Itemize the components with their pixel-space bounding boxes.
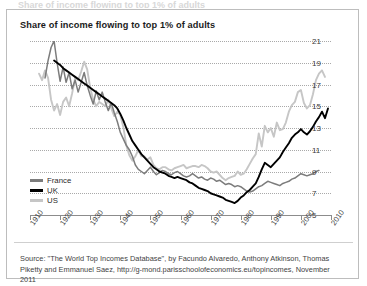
page-title: Share of income flowing to top 1% of adu…: [20, 20, 340, 30]
source-note: Source: "The World Top Incomes Database"…: [20, 254, 346, 286]
y-tick-label-19: 19: [312, 58, 338, 67]
legend-item-uk[interactable]: UK: [30, 186, 100, 195]
chart-panel: Share of income flowing to top 1% of adu…: [6, 9, 359, 279]
y-tick-label-21: 21: [312, 37, 338, 46]
legend-label-us: US: [47, 196, 58, 205]
figure-container: Share of income flowing to top 1% of adu…: [0, 0, 367, 286]
legend-swatch-france: [30, 179, 43, 182]
legend-item-us[interactable]: US: [30, 196, 100, 205]
legend-label-france: France: [47, 176, 71, 185]
series-line-france: [45, 41, 319, 192]
legend-item-france[interactable]: France: [30, 176, 100, 185]
legend-label-uk: UK: [47, 186, 58, 195]
y-tick-label-15: 15: [312, 102, 338, 111]
y-tick-label-13: 13: [312, 124, 338, 133]
ghost-header-text: Share of income flowing to top 1% of adu…: [18, 0, 348, 8]
source-divider: [14, 242, 353, 243]
legend-swatch-uk: [30, 189, 43, 192]
y-tick-label-7: 7: [312, 189, 338, 198]
y-tick-label-11: 11: [312, 145, 338, 154]
legend: FranceUKUS: [30, 176, 100, 206]
legend-swatch-us: [30, 199, 43, 202]
y-tick-label-9: 9: [312, 167, 338, 176]
y-tick-label-17: 17: [312, 80, 338, 89]
